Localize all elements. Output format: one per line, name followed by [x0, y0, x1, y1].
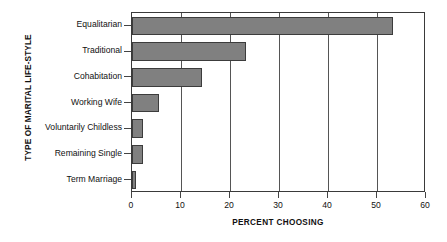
y-axis-tick	[124, 179, 131, 180]
bar-chart: TYPE OF MARITAL LIFE-STYLE EqualitarianT…	[0, 0, 447, 242]
x-axis-tick-label: 20	[214, 200, 244, 210]
category-label: Working Wife	[18, 98, 122, 107]
x-axis-tick-label: 40	[312, 200, 342, 210]
x-axis-title: PERCENT CHOOSING	[131, 218, 425, 227]
x-axis-tick-label: 50	[361, 200, 391, 210]
gridline-30	[279, 13, 280, 191]
bar	[132, 171, 136, 190]
bar	[132, 145, 143, 164]
x-axis-tick	[180, 192, 181, 198]
plot-area	[131, 12, 425, 192]
category-label: Voluntarily Childless	[18, 123, 122, 132]
x-axis-tick-label: 60	[410, 200, 440, 210]
x-axis-tick	[327, 192, 328, 198]
x-axis-tick	[278, 192, 279, 198]
category-label: Traditional	[18, 46, 122, 55]
bar	[132, 119, 143, 138]
y-axis-tick	[124, 25, 131, 26]
bar	[132, 42, 246, 61]
x-axis-tick	[229, 192, 230, 198]
x-axis-tick-label: 0	[116, 200, 146, 210]
category-label: Cohabitation	[18, 72, 122, 81]
gridline-20	[230, 13, 231, 191]
x-axis-tick	[425, 192, 426, 198]
y-axis-tick	[124, 76, 131, 77]
y-axis-tick	[124, 153, 131, 154]
gridline-50	[377, 13, 378, 191]
category-label-list: EqualitarianTraditionalCohabitationWorki…	[18, 12, 122, 192]
gridline-10	[181, 13, 182, 191]
y-axis-tick	[124, 102, 131, 103]
x-axis-tick	[376, 192, 377, 198]
gridline-40	[328, 13, 329, 191]
x-axis-tick-label: 10	[165, 200, 195, 210]
x-axis-tick	[131, 192, 132, 198]
category-label: Remaining Single	[18, 149, 122, 158]
bar	[132, 68, 202, 87]
category-label: Equalitarian	[18, 20, 122, 29]
bar	[132, 17, 393, 36]
category-label: Term Marriage	[18, 175, 122, 184]
y-axis-tick	[124, 128, 131, 129]
x-axis-tick-label: 30	[263, 200, 293, 210]
bar	[132, 94, 159, 113]
y-axis-tick	[124, 51, 131, 52]
